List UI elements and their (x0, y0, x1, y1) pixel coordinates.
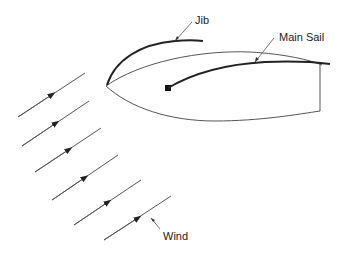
main-sail (165, 62, 330, 91)
jib-label: Jib (195, 14, 209, 26)
main-sail-label-group: Main Sail (255, 31, 324, 62)
wind-arrows (18, 73, 171, 240)
wind-label-group: Wind (151, 218, 188, 242)
main-sail-label: Main Sail (279, 31, 324, 43)
sailboat-diagram: Jib Main Sail Wind (0, 0, 344, 254)
jib-label-group: Jib (175, 14, 209, 41)
wind-label: Wind (163, 230, 188, 242)
